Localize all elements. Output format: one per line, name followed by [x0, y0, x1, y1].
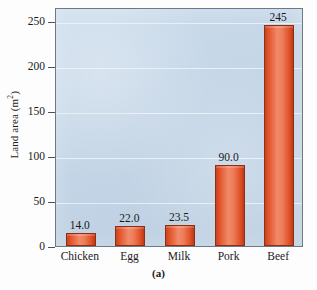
bar-highlight: [67, 234, 95, 236]
bar-highlight: [116, 227, 144, 229]
y-axis-tick-mark: [48, 247, 55, 248]
bar: [165, 225, 195, 246]
y-axis-tick-mark: [48, 157, 55, 158]
y-axis-title-exponent: 2: [6, 95, 15, 99]
y-axis-tick-mark: [48, 67, 55, 68]
y-axis-tick-label: 200: [5, 61, 45, 73]
y-axis-title: Land area (m2): [6, 50, 20, 200]
bar: [215, 165, 245, 246]
bar-value-label: 90.0: [199, 151, 259, 163]
y-axis-tick-label: 250: [5, 16, 45, 28]
bar: [115, 226, 145, 246]
y-axis-tick-label: 150: [5, 106, 45, 118]
bar: [66, 233, 96, 246]
bar-highlight: [216, 166, 244, 168]
bar-highlight: [265, 26, 293, 28]
bar-highlight: [166, 226, 194, 228]
x-axis-category-label: Beef: [243, 250, 313, 263]
y-axis-tick-mark: [48, 202, 55, 203]
panel-caption: (a): [0, 267, 317, 279]
y-axis-title-paren: ): [8, 91, 20, 95]
y-axis-tick-mark: [48, 112, 55, 113]
y-axis-tick-label: 0: [5, 241, 45, 253]
bar-value-label: 245: [248, 11, 308, 23]
y-axis-tick-label: 100: [5, 151, 45, 163]
bar: [264, 25, 294, 246]
y-axis-tick-label: 50: [5, 196, 45, 208]
y-axis-tick-mark: [48, 22, 55, 23]
bar-value-label: 23.5: [149, 211, 209, 223]
bar-chart-figure: Land area (m2) 050100150200250 14.022.02…: [0, 0, 317, 290]
